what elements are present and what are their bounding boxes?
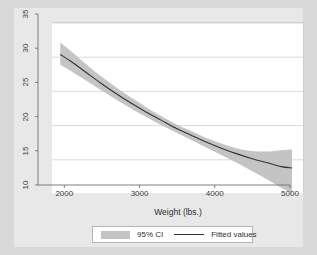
y-tick-label: 35 <box>21 5 31 23</box>
y-tick-label: 15 <box>21 142 31 160</box>
x-axis-title: Weight (lbs.) <box>52 207 304 217</box>
x-tick-label: 5000 <box>272 189 308 198</box>
y-tick-label: 20 <box>21 108 31 126</box>
y-tick-label: 30 <box>21 39 31 57</box>
x-tick-label: 2000 <box>46 189 82 198</box>
legend-label-fitted-values: Fitted values <box>211 230 256 239</box>
axis-lines-group <box>38 14 290 185</box>
tick-marks-group <box>35 14 290 188</box>
graph-inner-frame: 101520253035 2000300040005000 Weight (lb… <box>14 8 303 247</box>
y-tick-label: 25 <box>21 73 31 91</box>
x-tick-label: 4000 <box>197 189 233 198</box>
legend-label-ci: 95% CI <box>137 230 163 239</box>
y-tick-label: 10 <box>21 176 31 194</box>
legend-swatch-fitted-values <box>174 234 204 235</box>
figure-background: 101520253035 2000300040005000 Weight (lb… <box>0 0 317 255</box>
chart-legend: 95% CI Fitted values <box>92 226 253 243</box>
x-tick-label: 3000 <box>122 189 158 198</box>
legend-swatch-ci <box>101 231 130 239</box>
